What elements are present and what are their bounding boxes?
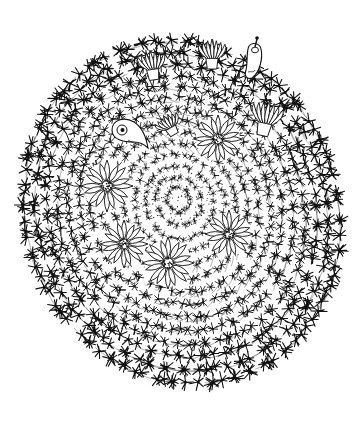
spine-cluster: [218, 187, 226, 193]
spine-cluster: [116, 327, 127, 340]
spine-cluster: [62, 237, 71, 255]
spine-cluster: [51, 184, 65, 193]
spine-cluster: [75, 191, 86, 202]
spine-cluster: [305, 248, 317, 263]
spine-cluster: [112, 84, 123, 95]
spine-cluster: [55, 153, 66, 171]
spine-cluster: [155, 142, 162, 151]
spine-cluster: [211, 191, 217, 197]
spine-cluster: [217, 276, 228, 291]
spine-cluster: [250, 152, 259, 163]
spine-cluster: [138, 169, 144, 176]
spine-cluster: [307, 121, 320, 135]
spine-clusters: [14, 33, 348, 392]
spine-cluster: [192, 246, 198, 252]
spine-cluster: [213, 173, 219, 179]
spine-cluster: [81, 319, 100, 336]
spine-cluster: [77, 166, 87, 177]
spine-cluster: [63, 204, 73, 219]
spine-cluster: [87, 147, 97, 157]
spine-cluster: [144, 189, 150, 195]
spine-cluster: [188, 235, 193, 242]
spine-cluster: [109, 150, 119, 159]
spine-cluster: [208, 323, 218, 334]
spine-cluster: [166, 33, 178, 46]
spine-cluster: [135, 344, 156, 356]
spine-cluster: [316, 169, 330, 181]
spine-cluster: [199, 324, 208, 334]
spine-cluster: [184, 327, 202, 339]
spine-cluster: [151, 159, 158, 165]
spine-cluster: [97, 52, 109, 62]
spine-cluster: [40, 192, 50, 206]
spine-cluster: [282, 301, 294, 315]
spine-cluster: [186, 220, 191, 226]
spine-cluster: [203, 178, 209, 184]
spine-cluster: [53, 192, 64, 202]
spine-cluster: [183, 350, 195, 363]
spine-cluster: [83, 243, 95, 253]
spine-cluster: [158, 322, 167, 331]
spine-cluster: [180, 237, 187, 242]
flower-bottom-center: [142, 237, 194, 289]
spine-cluster: [183, 153, 189, 159]
spine-cluster: [178, 375, 194, 390]
spine-cluster: [159, 213, 164, 218]
spine-cluster: [150, 173, 158, 179]
fruit-curved-left: [112, 119, 148, 148]
spine-cluster: [52, 204, 63, 214]
spine-cluster: [93, 131, 105, 142]
spine-cluster: [122, 335, 132, 346]
spine-cluster: [187, 166, 193, 173]
spine-cluster: [255, 314, 267, 326]
spine-cluster: [163, 164, 169, 171]
spine-cluster: [299, 156, 309, 169]
spine-cluster: [105, 136, 114, 146]
spine-cluster: [276, 220, 285, 232]
spine-cluster: [287, 217, 298, 227]
spine-cluster: [272, 176, 281, 187]
spine-cluster: [188, 197, 193, 202]
spine-cluster: [161, 153, 167, 160]
spine-cluster: [116, 306, 130, 318]
spine-cluster: [43, 151, 57, 172]
spine-cluster: [169, 286, 176, 296]
spine-cluster: [165, 45, 178, 59]
spine-cluster: [136, 178, 144, 184]
spine-cluster: [206, 184, 213, 191]
flower-lower-left: [100, 220, 148, 268]
flower-right: [205, 210, 253, 258]
spine-cluster: [293, 177, 305, 186]
spine-cluster: [131, 196, 139, 204]
spine-cluster: [201, 162, 208, 169]
flower-left: [81, 160, 133, 212]
spine-cluster: [81, 128, 94, 142]
spine-cluster: [263, 237, 274, 245]
spine-cluster: [61, 97, 76, 108]
spine-cluster: [115, 273, 125, 281]
spine-cluster: [286, 185, 299, 196]
spine-cluster: [277, 231, 286, 241]
spine-cluster: [256, 143, 264, 154]
spine-cluster: [218, 68, 229, 82]
spine-cluster: [192, 158, 200, 163]
spine-cluster: [165, 193, 171, 199]
spine-cluster: [158, 167, 163, 174]
spine-cluster: [142, 163, 149, 170]
spine-cluster: [204, 255, 212, 261]
spine-cluster: [198, 191, 203, 198]
spine-cluster: [248, 241, 256, 261]
spine-cluster: [206, 283, 214, 291]
spine-cluster: [273, 241, 284, 249]
spine-cluster: [43, 171, 54, 182]
spine-cluster: [177, 115, 187, 124]
spine-cluster: [244, 129, 254, 138]
spine-cluster: [193, 184, 198, 190]
spine-cluster: [188, 202, 193, 208]
spine-cluster: [226, 286, 237, 301]
spine-cluster: [194, 212, 201, 218]
spine-cluster: [88, 139, 101, 151]
spine-cluster: [146, 233, 153, 240]
spine-cluster: [170, 162, 176, 170]
bud-top-center: [198, 39, 225, 69]
